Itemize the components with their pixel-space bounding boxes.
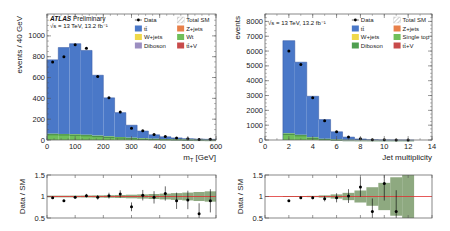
ttbar-bin <box>47 60 58 134</box>
right-ratio-panel: 0.511.5Data / SM <box>236 171 432 223</box>
ratio-point <box>74 196 77 199</box>
figure-canvas: 020040060080010000100200300400500600even… <box>0 0 450 231</box>
ratio-point <box>347 195 350 198</box>
legend-label: W+jets <box>144 34 163 40</box>
ttbar-bin <box>283 41 295 134</box>
legend-label: tt̄ <box>144 26 148 32</box>
ratio-y-axis-label: Data / SM <box>236 178 245 214</box>
y-tick-label: 400 <box>32 94 45 103</box>
legend-label: Total SM <box>403 17 426 23</box>
y-tick-label: 3000 <box>246 91 263 100</box>
y-tick-label: 1000 <box>246 121 263 130</box>
energy-lumi-label: √s = 13 TeV, 13.2 fb⁻¹ <box>50 23 108 29</box>
ratio-point <box>383 182 386 185</box>
data-point <box>311 96 314 99</box>
data-point <box>164 135 167 138</box>
ratio-y-tick-label: 0.5 <box>35 214 45 223</box>
y-axis-label: events / 40 GeV <box>15 15 24 73</box>
ratio-point <box>119 192 122 195</box>
x-axis-label: Jet multiplicity <box>382 153 432 162</box>
ratio-point <box>96 196 99 199</box>
ratio-point <box>287 199 290 202</box>
left-panel: 020040060080010000100200300400500600even… <box>15 14 222 223</box>
ttbar-bin <box>92 75 103 135</box>
legend-swatch <box>394 34 401 40</box>
x-axis-label: mT [GeV] <box>183 153 216 163</box>
legend-swatch <box>394 43 401 49</box>
legend-label: Data <box>361 17 374 23</box>
y-tick-label: 2000 <box>246 106 263 115</box>
data-point <box>119 111 122 114</box>
ratio-point <box>335 196 338 199</box>
x-tick-label: 2 <box>287 142 291 151</box>
legend-label: tt̄ <box>361 26 365 32</box>
y-tick-label: 1000 <box>28 31 45 40</box>
left-legend: DataTotal SMtt̄Z+jetsW+jetsWtDibosontt̄+… <box>135 17 210 49</box>
other-bkg-bin <box>103 136 114 140</box>
data-point <box>130 127 133 130</box>
data-point <box>85 47 88 50</box>
atlas-label: ATLAS <box>49 15 72 22</box>
legend-label: Total SM <box>186 17 209 23</box>
ttbar-bin <box>81 50 92 134</box>
legend-label: tt̄+V <box>186 43 197 49</box>
other-bkg-bin <box>115 137 126 140</box>
legend-label: Wt <box>186 34 194 40</box>
legend-label: tt̄+V <box>403 43 414 49</box>
ratio-y-tick-label: 1 <box>41 192 45 201</box>
legend-swatch <box>177 34 184 40</box>
y-tick-label: 6000 <box>246 47 263 56</box>
y-tick-label: 800 <box>32 52 45 61</box>
legend-swatch <box>177 43 184 49</box>
x-tick-label: 6 <box>334 142 338 151</box>
ratio-point <box>51 196 54 199</box>
y-tick-label: 4000 <box>246 76 263 85</box>
ratio-point <box>141 194 144 197</box>
legend-data-marker <box>137 19 140 22</box>
x-tick-label: 300 <box>125 142 138 151</box>
ratio-point <box>175 199 178 202</box>
legend-swatch <box>352 43 359 49</box>
x-tick-label: 200 <box>97 142 110 151</box>
ratio-point <box>323 197 326 200</box>
x-tick-label: 0 <box>45 142 49 151</box>
y-tick-label: 8000 <box>246 17 263 26</box>
legend-swatch <box>177 26 184 32</box>
y-tick-label: 5000 <box>246 61 263 70</box>
legend-label: Diboson <box>144 43 166 49</box>
data-point <box>51 60 54 63</box>
legend-swatch <box>135 34 142 40</box>
ratio-point <box>164 192 167 195</box>
x-tick-label: 8 <box>358 142 362 151</box>
y-tick-label: 200 <box>32 115 45 124</box>
data-point <box>335 130 338 133</box>
legend-swatch <box>135 43 142 49</box>
x-tick-label: 10 <box>380 142 388 151</box>
ratio-point <box>62 199 65 202</box>
ttbar-bin <box>70 44 81 135</box>
ratio-point <box>359 186 362 189</box>
data-point <box>107 96 110 99</box>
data-point <box>74 43 77 46</box>
left-ratio-panel: 0.511.5Data / SM <box>18 171 216 223</box>
right-legend: DataTotal SMtt̄Z+jetsW+jetsSingle topDib… <box>352 17 430 49</box>
ratio-point <box>153 196 156 199</box>
legend-label: Data <box>144 17 157 23</box>
x-tick-label: 0 <box>263 142 267 151</box>
ttbar-bin <box>295 62 307 135</box>
x-tick-label: 600 <box>210 142 223 151</box>
preliminary-label: Preliminary <box>73 15 106 23</box>
legend-swatch <box>352 34 359 40</box>
legend-label: W+jets <box>361 34 380 40</box>
energy-lumi-label: √s = 13 TeV, 13.2 fb⁻¹ <box>268 20 326 26</box>
data-point <box>141 129 144 132</box>
other-bkg-bin <box>92 136 103 140</box>
data-point <box>153 133 156 136</box>
ttbar-bin <box>58 48 69 134</box>
ttbar-bin <box>103 98 114 137</box>
ratio-point <box>371 210 374 213</box>
legend-label: Z+jets <box>186 26 203 32</box>
ratio-point <box>198 212 201 215</box>
ratio-y-tick-label: 1.5 <box>35 171 45 180</box>
x-tick-label: 100 <box>69 142 82 151</box>
